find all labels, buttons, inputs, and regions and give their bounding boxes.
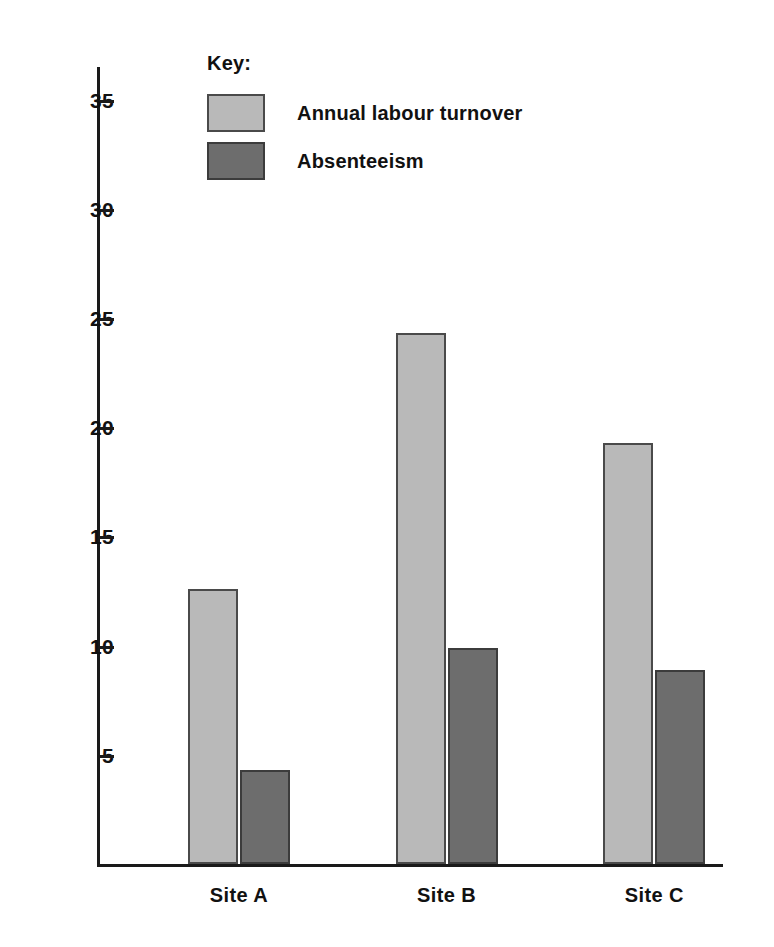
- legend-swatch-icon-series-1: [207, 142, 265, 180]
- bar-site-a-series-0: [188, 589, 238, 864]
- legend-title: Key:: [207, 52, 607, 75]
- y-tick-10: 10: [0, 646, 114, 649]
- y-tick-35: 35: [0, 100, 114, 103]
- bar-site-c-series-1: [655, 670, 705, 864]
- bar-site-c-series-0: [603, 443, 653, 864]
- x-axis-label-site-a: Site A: [159, 884, 319, 907]
- plot-area: [100, 67, 723, 864]
- legend-item-absenteeism: Absenteeism: [207, 137, 607, 185]
- legend-swatch-icon-series-0: [207, 94, 265, 132]
- legend-label-series-0: Annual labour turnover: [297, 102, 523, 125]
- y-tick-20: 20: [0, 427, 114, 430]
- legend: Key: Annual labour turnover Absenteeism: [207, 52, 607, 185]
- y-tick-25: 25: [0, 318, 114, 321]
- x-axis-label-site-b: Site B: [367, 884, 527, 907]
- bar-site-b-series-1: [448, 648, 498, 864]
- y-tick-30: 30: [0, 209, 114, 212]
- bar-site-a-series-1: [240, 770, 290, 864]
- y-tick-5: 5: [0, 755, 114, 758]
- bar-chart: 5101520253035 Site ASite BSite C Key: An…: [0, 0, 774, 947]
- x-axis-line: [97, 864, 723, 867]
- bar-site-b-series-0: [396, 333, 446, 864]
- legend-label-series-1: Absenteeism: [297, 150, 424, 173]
- y-tick-15: 15: [0, 536, 114, 539]
- legend-item-annual-labour-turnover: Annual labour turnover: [207, 89, 607, 137]
- x-axis-label-site-c: Site C: [574, 884, 734, 907]
